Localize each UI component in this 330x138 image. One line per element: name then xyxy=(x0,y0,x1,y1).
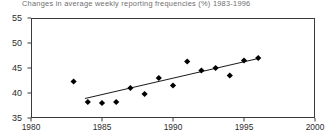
x-axis-tick-label: 1995 xyxy=(221,123,267,132)
data-point xyxy=(127,85,133,91)
data-point xyxy=(255,55,261,61)
y-axis-tick-label: 50 xyxy=(2,39,22,48)
x-axis-tick-label: 1980 xyxy=(8,123,54,132)
data-point xyxy=(85,99,91,105)
data-point xyxy=(184,58,190,64)
data-point xyxy=(198,67,204,73)
x-axis-tick-label: 1985 xyxy=(79,123,125,132)
x-axis-ticks xyxy=(31,118,315,122)
data-points xyxy=(71,55,262,106)
data-point xyxy=(227,72,233,78)
data-point xyxy=(142,91,148,97)
data-point xyxy=(213,65,219,71)
chart-canvas xyxy=(0,0,330,138)
data-point xyxy=(99,100,105,106)
chart-container: Changes in average weekly reporting freq… xyxy=(0,0,330,138)
x-axis-tick-label: 1990 xyxy=(150,123,196,132)
data-point xyxy=(71,78,77,84)
y-axis-tick-label: 35 xyxy=(2,114,22,123)
trend-line xyxy=(85,59,258,99)
data-point xyxy=(170,82,176,88)
y-axis-tick-label: 55 xyxy=(2,14,22,23)
data-point xyxy=(156,75,162,81)
y-axis-tick-label: 45 xyxy=(2,64,22,73)
data-point xyxy=(113,99,119,105)
x-axis-tick-label: 2000 xyxy=(292,123,330,132)
y-axis-ticks xyxy=(28,18,32,118)
y-axis-tick-label: 40 xyxy=(2,89,22,98)
